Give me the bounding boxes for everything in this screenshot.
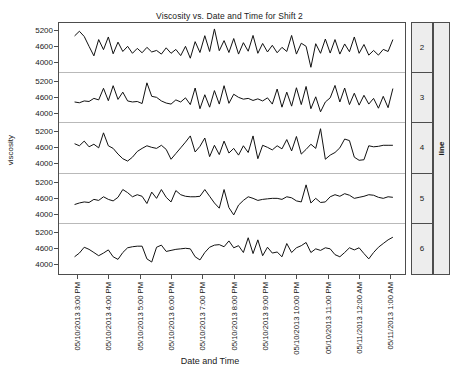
series-line-4 — [75, 129, 393, 161]
strip-label-2: 2 — [412, 23, 432, 73]
x-tick-label: 05/11/2013 12:00 AM — [355, 282, 364, 354]
x-tick-label: 05/10/2013 8:00 PM — [229, 282, 238, 350]
y-tick-label: 5200 — [35, 25, 53, 34]
y-tick-label: 4000 — [35, 159, 53, 168]
panel-line-6 — [59, 224, 405, 274]
series-line-5 — [75, 184, 393, 214]
series-line-3 — [75, 83, 393, 112]
x-tick-mark — [234, 275, 235, 279]
group-variable-label-text: line — [437, 142, 446, 156]
x-tick-mark — [140, 275, 141, 279]
x-tick-mark — [359, 275, 360, 279]
strip-label-4: 4 — [412, 123, 432, 173]
x-tick-mark — [202, 275, 203, 279]
y-tick-label: 5200 — [35, 127, 53, 136]
x-tick-mark — [265, 275, 266, 279]
strip-label-3: 3 — [412, 73, 432, 123]
x-tick-label: 05/10/2013 6:00 PM — [167, 282, 176, 350]
panel-line-5 — [59, 174, 405, 224]
x-axis-label: Date and Time — [0, 356, 420, 366]
x-tick-label: 05/10/2013 9:00 PM — [261, 282, 270, 350]
y-tick-group-4: 400046005200 — [0, 123, 58, 174]
y-tick-label: 4000 — [35, 108, 53, 117]
y-tick-label: 5200 — [35, 76, 53, 85]
panel-line-3 — [59, 73, 405, 123]
x-tick-mark — [77, 275, 78, 279]
group-variable-label: line — [433, 22, 450, 275]
y-tick-label: 4600 — [35, 244, 53, 253]
y-tick-label: 4000 — [35, 260, 53, 269]
y-tick-label: 5200 — [35, 228, 53, 237]
x-axis-ticks: 05/10/2013 3:00 PM05/10/2013 4:00 PM05/1… — [58, 275, 406, 359]
panel-line-4 — [59, 123, 405, 173]
y-axis-ticks: 4000460052004000460052004000460052004000… — [0, 22, 58, 275]
x-tick-mark — [108, 275, 109, 279]
x-tick-label: 05/10/2013 7:00 PM — [198, 282, 207, 350]
chart-root: Viscosity vs. Date and Time for Shift 2 … — [0, 0, 459, 389]
x-tick-label: 05/10/2013 4:00 PM — [104, 282, 113, 350]
x-tick-label: 05/11/2013 1:00 AM — [386, 282, 395, 349]
x-tick-mark — [390, 275, 391, 279]
y-tick-label: 5200 — [35, 177, 53, 186]
y-tick-group-6: 400046005200 — [0, 224, 58, 275]
x-tick-label: 05/10/2013 11:00 PM — [323, 282, 332, 354]
y-tick-label: 4600 — [35, 41, 53, 50]
y-tick-group-3: 400046005200 — [0, 73, 58, 124]
panel-strip-labels: 23456 — [411, 22, 433, 275]
y-tick-label: 4000 — [35, 57, 53, 66]
series-line-6 — [75, 237, 393, 262]
panel-line-2 — [59, 23, 405, 73]
y-tick-group-2: 400046005200 — [0, 22, 58, 73]
y-tick-label: 4600 — [35, 143, 53, 152]
y-tick-label: 4000 — [35, 209, 53, 218]
series-line-2 — [75, 29, 393, 67]
strip-label-5: 5 — [412, 174, 432, 224]
plot-panels — [58, 22, 406, 275]
x-tick-mark — [171, 275, 172, 279]
x-tick-label: 05/10/2013 3:00 PM — [73, 282, 82, 350]
y-tick-group-5: 400046005200 — [0, 174, 58, 225]
y-tick-label: 4600 — [35, 92, 53, 101]
strip-label-6: 6 — [412, 224, 432, 274]
x-tick-label: 05/10/2013 5:00 PM — [135, 282, 144, 350]
x-tick-mark — [296, 275, 297, 279]
y-tick-label: 4600 — [35, 193, 53, 202]
x-tick-label: 05/10/2013 10:00 PM — [292, 282, 301, 355]
x-tick-mark — [328, 275, 329, 279]
chart-title: Viscosity vs. Date and Time for Shift 2 — [0, 11, 459, 21]
